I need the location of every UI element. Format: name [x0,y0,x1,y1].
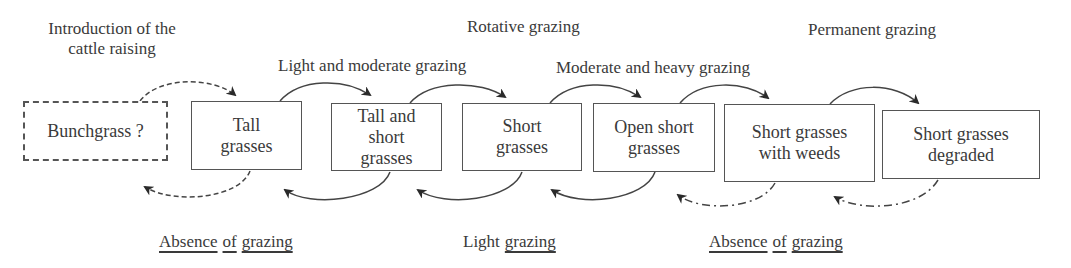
state-label: Short grasses with weeds [752,122,848,164]
label-moderate-heavy-grazing: Moderate and heavy grazing [556,58,750,78]
state-label: Short grasses [496,116,548,158]
label-introduction-line2: cattle raising [22,39,202,59]
state-short-grasses-degraded: Short grasses degraded [882,110,1040,179]
word-of: of [223,232,237,251]
state-tall-grasses: Tall grasses [191,101,302,170]
word-grazing: grazing [242,232,293,251]
state-label: Tall and short grasses [357,106,415,169]
label-light-moderate-grazing: Light and moderate grazing [278,56,466,76]
word-absence: Absence [709,232,768,251]
label-introduction: Introduction of the cattle raising [22,19,202,59]
arrow-bunch-to-tall [140,82,235,101]
label-absence-of-grazing-right: Absenceofgrazing [709,232,848,252]
state-label: Tall grasses [221,115,273,157]
word-light: Light [463,232,500,251]
label-light-grazing: Lightgrazing [463,232,561,252]
label-introduction-line1: Introduction of the [22,19,202,39]
state-short-grasses: Short grasses [462,103,582,171]
state-label: Open short grasses [614,117,694,159]
state-tall-and-short-grasses: Tall and short grasses [331,103,442,171]
word-of: of [773,232,787,251]
label-permanent-grazing: Permanent grazing [808,20,936,40]
state-label: Bunchgrass ? [47,121,143,142]
state-short-grasses-with-weeds: Short grasses with weeds [724,104,875,182]
label-rotative-grazing: Rotative grazing [467,17,580,37]
state-open-short-grasses: Open short grasses [593,103,715,172]
word-grazing: grazing [505,232,556,251]
word-absence: Absence [159,232,218,251]
word-grazing: grazing [792,232,843,251]
label-absence-of-grazing-left: Absenceofgrazing [159,232,298,252]
state-label: Short grasses degraded [913,124,1009,166]
state-bunchgrass: Bunchgrass ? [23,101,168,161]
